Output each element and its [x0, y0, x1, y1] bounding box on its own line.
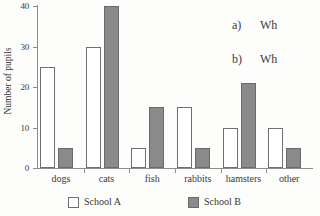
legend-label: School A	[84, 196, 121, 208]
x-label-fish: fish	[129, 173, 175, 184]
question-text-b: Wh	[260, 52, 277, 66]
question-list: a) Wh b) Wh	[232, 18, 320, 86]
bar-hamsters-school-a	[223, 128, 238, 169]
bar-group-dogs	[38, 6, 84, 168]
y-tick-label-30: 30	[20, 43, 29, 52]
question-text-a: Wh	[260, 18, 277, 32]
bar-group-rabbits	[175, 6, 221, 168]
chart-legend: School ASchool B	[0, 196, 320, 214]
question-marker-a: a)	[232, 18, 246, 32]
x-label-cats: cats	[84, 173, 130, 184]
question-marker-b: b)	[232, 52, 246, 66]
bar-hamsters-school-b	[241, 83, 256, 168]
legend-label: School B	[204, 196, 241, 208]
y-axis-title: Number of pupils	[3, 21, 13, 141]
bar-cats-school-a	[86, 47, 101, 169]
legend-swatch-school-b-icon	[188, 197, 199, 208]
legend-item-school-b: School B	[188, 196, 241, 208]
legend-swatch-school-a-icon	[68, 197, 79, 208]
question-item-b: b) Wh	[232, 52, 320, 66]
bar-fish-school-b	[149, 107, 164, 168]
bar-dogs-school-a	[40, 67, 55, 168]
bar-group-fish	[129, 6, 175, 168]
x-label-hamsters: hamsters	[221, 173, 267, 184]
legend-item-school-a: School A	[68, 196, 121, 208]
x-label-rabbits: rabbits	[175, 173, 221, 184]
bar-other-school-a	[268, 128, 283, 169]
y-tick-label-10: 10	[20, 124, 29, 133]
y-tick-label-20: 20	[20, 83, 29, 92]
x-label-dogs: dogs	[38, 173, 84, 184]
bar-dogs-school-b	[58, 148, 73, 168]
bar-rabbits-school-a	[177, 107, 192, 168]
y-tick-label-40: 40	[20, 2, 29, 11]
bar-rabbits-school-b	[195, 148, 210, 168]
bar-fish-school-a	[131, 148, 146, 168]
bar-other-school-b	[286, 148, 301, 168]
y-tick-label-0: 0	[25, 164, 29, 173]
bar-cats-school-b	[104, 6, 119, 168]
x-label-other: other	[266, 173, 312, 184]
y-tick-0	[33, 168, 38, 169]
question-item-a: a) Wh	[232, 18, 320, 32]
bar-group-cats	[84, 6, 130, 168]
